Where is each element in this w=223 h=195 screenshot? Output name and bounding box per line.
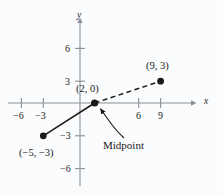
y-tick-label-3: 3 (65, 77, 70, 87)
midpoint-callout-label: Midpoint (103, 140, 144, 151)
midpoint-callout-arrow (101, 109, 125, 139)
x-axis-label: x (204, 97, 208, 107)
y-tick-label-neg3: −3 (60, 131, 71, 141)
y-tick-label-neg6: −6 (60, 164, 71, 174)
point-label-midpoint: (2, 0) (76, 84, 99, 95)
point-marker-right (157, 78, 164, 85)
segment-right-dashed (95, 81, 161, 103)
x-tick-label-neg6: −6 (13, 111, 24, 121)
y-axis-label: y (77, 11, 81, 21)
point-marker-left (40, 132, 47, 139)
midpoint-coordinate-figure: x y −6 −3 6 9 6 3 −3 −6 (−5, −3) (2, 0) … (0, 0, 223, 195)
point-label-left: (−5, −3) (19, 148, 54, 159)
x-tick-label-9: 9 (158, 111, 163, 121)
coordinate-plane (0, 0, 223, 195)
point-label-right: (9, 3) (146, 61, 169, 72)
y-tick-label-6: 6 (65, 44, 70, 54)
point-marker-midpoint (91, 99, 98, 106)
x-tick-label-6: 6 (136, 111, 141, 121)
x-tick-label-neg3: −3 (35, 111, 46, 121)
